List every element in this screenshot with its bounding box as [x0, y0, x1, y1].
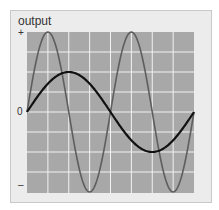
plot-area [0, 0, 219, 210]
